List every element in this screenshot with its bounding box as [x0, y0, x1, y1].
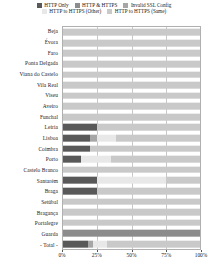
bar-segment — [107, 241, 200, 248]
legend-swatch-icon — [37, 3, 42, 8]
bar-segment — [63, 166, 200, 173]
y-axis-tick-label: Bragança — [0, 207, 60, 218]
bar-segment — [63, 145, 90, 152]
bar-row[interactable] — [63, 154, 200, 165]
y-axis-tick-label: Castelo Branco — [0, 165, 60, 176]
y-axis-tick-label: Viseu — [0, 90, 60, 101]
plot-area — [62, 26, 201, 250]
stacked-bar — [63, 166, 200, 173]
x-axis-labels: 0%25%50%75%100% — [62, 252, 201, 262]
stacked-bar — [63, 219, 200, 226]
bar-segment — [116, 135, 200, 142]
bar-row[interactable] — [63, 59, 200, 70]
legend-swatch-icon — [107, 9, 112, 14]
bar-row[interactable] — [63, 27, 200, 38]
bar-row[interactable] — [63, 133, 200, 144]
bar-segment — [90, 145, 200, 152]
stacked-bar — [63, 50, 200, 57]
bar-segment — [63, 50, 200, 57]
y-axis-tick-label: Coimbra — [0, 143, 60, 154]
bar-segment — [81, 156, 111, 163]
bar-row[interactable] — [63, 165, 200, 176]
stacked-bar — [63, 71, 200, 78]
y-axis-tick-label: Funchal — [0, 111, 60, 122]
bar-segment — [63, 61, 200, 68]
bar-row[interactable] — [63, 69, 200, 80]
stacked-bar — [63, 177, 200, 184]
stacked-bar — [63, 114, 200, 121]
legend-item[interactable]: HTTP to HTTPS (Same) — [107, 9, 166, 14]
y-axis-tick-label: Aveiro — [0, 101, 60, 112]
stacked-bar — [63, 230, 200, 237]
bar-segment — [63, 241, 88, 248]
y-axis-tick-label: Ponta Delgada — [0, 58, 60, 69]
y-axis-tick-label: Santarém — [0, 175, 60, 186]
legend-swatch-icon — [42, 9, 47, 14]
bar-row[interactable] — [63, 38, 200, 49]
y-axis-labels: BejaÉvoraFaroPonta DelgadaViana do Caste… — [0, 26, 60, 250]
bar-row[interactable] — [63, 122, 200, 133]
bar-row[interactable] — [63, 175, 200, 186]
y-axis-tick-label: Guarda — [0, 229, 60, 240]
bar-segment — [111, 156, 200, 163]
y-axis-tick-label: Évora — [0, 37, 60, 48]
x-axis-tick-label: 25% — [92, 252, 102, 258]
bar-segment — [97, 188, 200, 195]
legend-label: HTTP to HTTPS (Same) — [115, 9, 167, 14]
stacked-bar — [63, 29, 200, 36]
bar-segment — [63, 82, 200, 89]
bar-segment — [97, 124, 200, 131]
x-axis-tick-label: 100% — [195, 252, 208, 258]
bar-segment — [63, 71, 200, 78]
chart-legend: HTTP OnlyHTTP & HTTPSInvalid SSL ConfigH… — [0, 3, 208, 14]
bar-row[interactable] — [63, 143, 200, 154]
stacked-bar — [63, 40, 200, 47]
stacked-bar — [63, 135, 200, 142]
bar-segment — [166, 177, 200, 184]
y-axis-tick-label: Vila Real — [0, 79, 60, 90]
bar-row[interactable] — [63, 112, 200, 123]
stacked-bar — [63, 156, 200, 163]
bar-segment — [63, 219, 200, 226]
stacked-bar — [63, 145, 200, 152]
y-axis-tick-label: Faro — [0, 47, 60, 58]
bar-segment — [63, 198, 200, 205]
stacked-bar — [63, 209, 200, 216]
stacked-bar — [63, 92, 200, 99]
bar-row[interactable] — [63, 228, 200, 239]
bar-row[interactable] — [63, 239, 200, 250]
bar-segment — [63, 209, 200, 216]
stacked-bar — [63, 61, 200, 68]
stacked-bar-chart: HTTP OnlyHTTP & HTTPSInvalid SSL ConfigH… — [0, 0, 208, 276]
bar-segment — [63, 103, 200, 110]
stacked-bar — [63, 124, 200, 131]
bar-row[interactable] — [63, 207, 200, 218]
bar-row[interactable] — [63, 90, 200, 101]
bar-segment — [63, 40, 200, 47]
x-axis-tick-label: 75% — [161, 252, 171, 258]
bar-row[interactable] — [63, 80, 200, 91]
bar-row[interactable] — [63, 196, 200, 207]
bar-segment — [63, 114, 200, 121]
bar-segment — [63, 177, 97, 184]
y-axis-tick-label: Beja — [0, 26, 60, 37]
bar-segment — [63, 188, 97, 195]
bar-rows — [63, 27, 200, 249]
bar-segment — [63, 92, 200, 99]
x-axis-tick-label: 50% — [127, 252, 137, 258]
y-axis-tick-label: Braga — [0, 186, 60, 197]
bar-row[interactable] — [63, 101, 200, 112]
stacked-bar — [63, 188, 200, 195]
bar-segment — [63, 156, 81, 163]
bar-row[interactable] — [63, 186, 200, 197]
legend-item[interactable]: HTTP to HTTPS (Other) — [42, 9, 101, 14]
bar-row[interactable] — [63, 48, 200, 59]
bar-segment — [90, 135, 97, 142]
bar-segment — [63, 135, 90, 142]
bar-segment — [97, 135, 116, 142]
y-axis-tick-label: Porto — [0, 154, 60, 165]
y-axis-tick-label: Portalegre — [0, 218, 60, 229]
y-axis-tick-label: Setúbal — [0, 197, 60, 208]
bar-row[interactable] — [63, 217, 200, 228]
bar-segment — [97, 177, 166, 184]
